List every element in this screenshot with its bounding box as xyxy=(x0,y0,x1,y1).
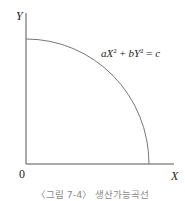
ppf-diagram xyxy=(0,0,185,201)
curve-equation: aX2 + bY2 = c xyxy=(101,48,160,59)
origin-label: 0 xyxy=(19,168,25,180)
x-axis-label: X xyxy=(171,170,178,182)
figure-caption: 〈그림 7-4〉 생산가능곡선 xyxy=(0,187,185,201)
y-axis-label: Y xyxy=(16,10,23,22)
